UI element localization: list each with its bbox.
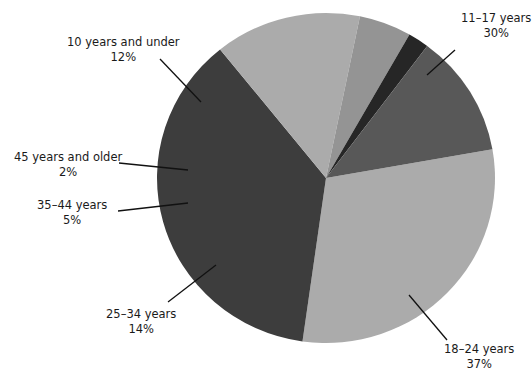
label-name-slice-25-34: 25–34 years <box>106 307 176 322</box>
pie-slices-group <box>157 13 495 343</box>
label-name-slice-35-44: 35–44 years <box>37 198 107 213</box>
label-name-slice-45-plus: 45 years and older <box>14 150 122 165</box>
label-slice-35-44: 35–44 years5% <box>37 198 107 227</box>
label-name-slice-18-24: 18–24 years <box>444 342 514 357</box>
label-percent-slice-35-44: 5% <box>37 213 107 228</box>
label-percent-slice-25-34: 14% <box>106 322 176 337</box>
label-slice-25-34: 25–34 years14% <box>106 307 176 336</box>
label-percent-slice-45-plus: 2% <box>14 165 122 180</box>
label-percent-slice-18-24: 37% <box>444 357 514 372</box>
pie-chart-page: 11–17 years30%18–24 years37%25–34 years1… <box>0 0 532 376</box>
label-name-slice-10-under: 10 years and under <box>67 35 180 50</box>
label-slice-45-plus: 45 years and older2% <box>14 150 122 179</box>
label-percent-slice-11-17: 30% <box>461 26 531 41</box>
label-name-slice-11-17: 11–17 years <box>461 11 531 26</box>
label-slice-10-under: 10 years and under12% <box>67 35 180 64</box>
label-slice-11-17: 11–17 years30% <box>461 11 531 40</box>
slice-11-17[interactable] <box>302 149 495 343</box>
label-percent-slice-10-under: 12% <box>67 50 180 65</box>
label-slice-18-24: 18–24 years37% <box>444 342 514 371</box>
